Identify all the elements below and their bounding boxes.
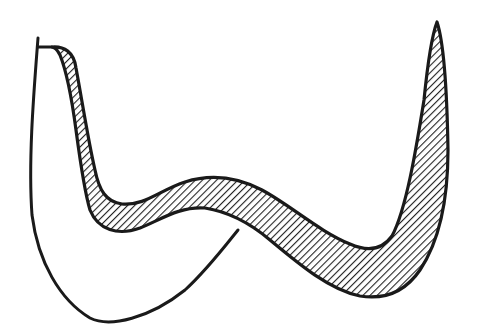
hatched-band — [52, 22, 448, 297]
w-band-figure — [0, 0, 477, 333]
diagram-canvas — [0, 0, 477, 333]
